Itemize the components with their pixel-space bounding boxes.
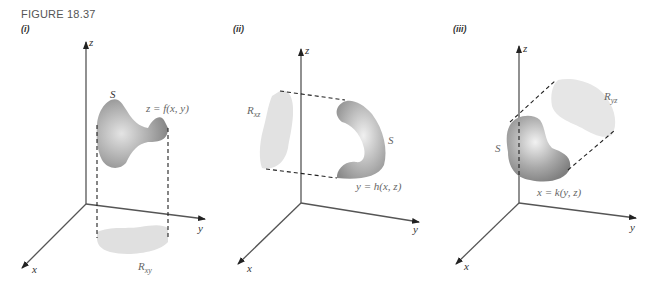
projection-line: [568, 131, 614, 170]
panel-iii: z y x S x = k(y, z) Ryz: [456, 42, 636, 272]
region-rxy: [97, 225, 168, 254]
y-axis: [86, 204, 205, 219]
x-axis-label: x: [463, 260, 469, 272]
panel-ii: z y x S y = h(x, z) Rxz: [238, 44, 419, 274]
surface-s: [507, 116, 571, 182]
region-label: Rxy: [137, 260, 152, 275]
region-ryz: [551, 79, 615, 137]
equation-label: y = h(x, z): [355, 180, 402, 193]
region-label: Rxz: [246, 104, 261, 119]
panel-i: z y x S z = f(x, y) Rxy: [22, 36, 205, 275]
x-axis-label: x: [31, 263, 37, 275]
surface-label: S: [495, 142, 501, 154]
x-axis: [238, 203, 301, 264]
x-axis: [456, 203, 519, 264]
z-axis-label: z: [304, 44, 310, 56]
figure-canvas: z y x S z = f(x, y) Rxy z y x S y = h(x,…: [0, 0, 653, 289]
surface-label: S: [388, 134, 394, 146]
y-axis: [301, 203, 419, 222]
projection-line: [510, 80, 556, 122]
equation-label: x = k(y, z): [536, 186, 581, 199]
surface-s: [337, 101, 386, 179]
region-rxz: [260, 91, 293, 169]
y-axis-label: y: [412, 223, 418, 235]
surface-label: S: [110, 88, 116, 100]
y-axis-label: y: [197, 222, 203, 234]
x-axis-label: x: [246, 262, 252, 274]
y-axis: [519, 203, 636, 218]
y-axis-label: y: [629, 221, 635, 233]
x-axis: [22, 204, 86, 268]
z-axis-label: z: [522, 42, 528, 54]
equation-label: z = f(x, y): [145, 102, 189, 115]
z-axis-label: z: [88, 36, 94, 48]
